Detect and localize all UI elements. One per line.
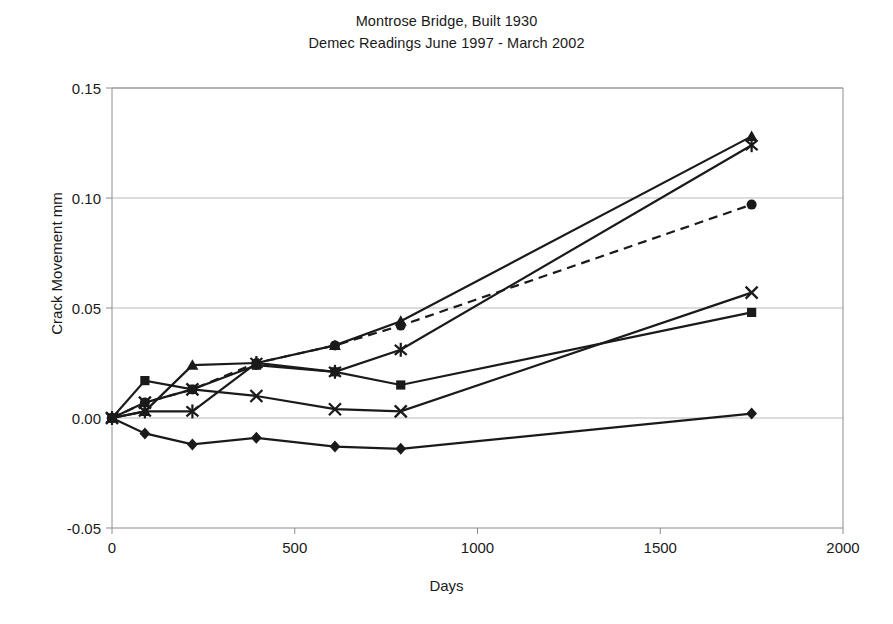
square-marker: [396, 380, 405, 389]
data-series: [106, 138, 758, 425]
series-line: [112, 205, 752, 418]
diamond-marker: [395, 443, 406, 455]
chart-figure: Montrose Bridge, Built 1930 Demec Readin…: [0, 0, 893, 624]
data-series: [107, 200, 757, 423]
y-tick-label: -0.05: [67, 520, 101, 537]
diamond-marker: [330, 441, 341, 453]
plot-area: -0.050.000.050.100.150500100015002000 Cr…: [0, 0, 893, 624]
y-tick-label: 0.10: [72, 190, 101, 207]
y-tick-label: 0.00: [72, 410, 101, 427]
y-tick-label: 0.15: [72, 80, 101, 97]
circle-marker: [396, 321, 406, 331]
square-marker: [747, 308, 756, 317]
x-tick-label: 500: [282, 539, 307, 556]
circle-marker: [107, 413, 117, 423]
circle-marker: [330, 340, 340, 350]
circle-marker: [187, 384, 197, 394]
square-marker: [140, 376, 149, 385]
diamond-marker: [187, 438, 198, 450]
data-series: [107, 408, 757, 455]
diamond-marker: [251, 432, 262, 444]
circle-marker: [251, 358, 261, 368]
x-tick-label: 1500: [644, 539, 677, 556]
x-tick-label: 0: [108, 539, 116, 556]
x-axis-label: Days: [0, 577, 893, 594]
chart-svg: -0.050.000.050.100.150500100015002000: [0, 0, 893, 624]
y-axis-label: Crack Movement mm: [48, 144, 65, 384]
series-line: [112, 136, 752, 418]
x-tick-label: 2000: [826, 539, 859, 556]
x-tick-label: 1000: [461, 539, 494, 556]
series-line: [112, 414, 752, 449]
diamond-marker: [139, 427, 150, 439]
circle-marker: [747, 200, 757, 210]
y-tick-label: 0.05: [72, 300, 101, 317]
circle-marker: [140, 398, 150, 408]
